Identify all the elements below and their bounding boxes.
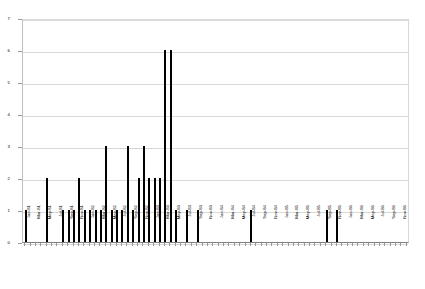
x-tick-mark [314,243,315,246]
x-tick-label: Nov-83 [209,205,214,245]
x-tick-mark [148,243,149,246]
x-tick-label: Sep-82 [134,205,139,245]
x-tick-mark [89,243,90,246]
x-tick-mark [196,243,197,246]
x-tick-label: Mar-83 [166,205,171,245]
x-tick-mark [51,243,52,246]
x-tick-mark [164,243,165,246]
x-tick-mark [180,243,181,246]
x-tick-mark [379,243,380,246]
x-tick-label: Jan-84 [220,205,225,245]
x-tick-mark [169,243,170,246]
x-tick-mark [395,243,396,246]
x-tick-mark [62,243,63,246]
y-tick-mark [18,115,22,116]
y-tick-mark [18,179,22,180]
x-tick-mark [234,243,235,246]
x-tick-mark [368,243,369,246]
x-tick-mark [250,243,251,246]
x-tick-mark [331,243,332,246]
x-tick-label: Nov-82 [145,205,150,245]
x-tick-label: Jan-82 [91,205,96,245]
x-tick-mark [288,243,289,246]
gridline [23,148,408,149]
gridline [23,180,408,181]
x-tick-label: Sep-86 [392,205,397,245]
x-tick-mark [121,243,122,246]
x-tick-mark [320,243,321,246]
x-tick-label: Jul-84 [252,205,257,245]
x-tick-mark [67,243,68,246]
x-tick-label: Jul-81 [59,205,64,245]
x-tick-mark [336,243,337,246]
x-tick-mark [56,243,57,246]
x-tick-mark [277,243,278,246]
x-tick-mark [175,243,176,246]
x-tick-mark [266,243,267,246]
y-tick-label: 7 [0,17,10,21]
x-tick-mark [298,243,299,246]
x-tick-mark [282,243,283,246]
x-tick-label: May-83 [177,205,182,245]
x-tick-mark [202,243,203,246]
y-tick-mark [18,83,22,84]
x-tick-label: Jan-85 [285,205,290,245]
x-tick-mark [185,243,186,246]
x-tick-mark [191,243,192,246]
x-tick-mark [347,243,348,246]
x-tick-mark [218,243,219,246]
x-tick-mark [105,243,106,246]
x-tick-mark [132,243,133,246]
x-tick-mark [384,243,385,246]
x-tick-label: Jul-82 [123,205,128,245]
x-tick-label: Nov-86 [403,205,408,245]
x-tick-mark [46,243,47,246]
x-tick-mark [159,243,160,246]
x-tick-mark [271,243,272,246]
x-tick-mark [142,243,143,246]
x-tick-mark [35,243,36,246]
x-tick-label: Jan-83 [156,205,161,245]
x-tick-mark [83,243,84,246]
x-tick-label: Nov-84 [274,205,279,245]
x-tick-mark [400,243,401,246]
y-tick-mark [18,147,22,148]
x-tick-label: May-81 [48,205,53,245]
x-tick-mark [245,243,246,246]
x-tick-mark [374,243,375,246]
y-tick-mark [18,211,22,212]
gridline [23,116,408,117]
x-tick-label: Nov-81 [80,205,85,245]
x-tick-mark [73,243,74,246]
x-tick-label: Sep-83 [199,205,204,245]
x-tick-label: Mar-84 [231,205,236,245]
y-tick-label: 3 [0,145,10,149]
x-tick-mark [228,243,229,246]
x-tick-mark [207,243,208,246]
y-tick-mark [18,51,22,52]
y-tick-label: 5 [0,81,10,85]
gridline [23,52,408,53]
x-tick-label: Mar-85 [295,205,300,245]
x-tick-mark [116,243,117,246]
x-tick-label: Jan-81 [27,205,32,245]
x-tick-mark [261,243,262,246]
x-tick-mark [239,243,240,246]
x-tick-label: Mar-82 [102,205,107,245]
y-tick-mark [18,243,22,244]
x-tick-mark [357,243,358,246]
x-tick-mark [363,243,364,246]
gridline [23,20,408,21]
gridline [23,84,408,85]
x-tick-label: Sep-84 [263,205,268,245]
y-tick-label: 0 [0,241,10,245]
x-tick-label: Jan-86 [349,205,354,245]
y-tick-label: 1 [0,209,10,213]
x-tick-label: Jul-83 [188,205,193,245]
x-tick-mark [352,243,353,246]
x-tick-mark [406,243,407,246]
x-tick-mark [325,243,326,246]
x-tick-mark [255,243,256,246]
x-tick-mark [390,243,391,246]
x-tick-label: May-84 [242,205,247,245]
